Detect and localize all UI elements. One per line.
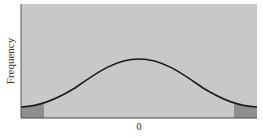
x-tick-zero: 0 — [134, 121, 144, 132]
y-axis-label: Frequency — [2, 30, 18, 92]
normal-distribution-chart — [0, 0, 263, 138]
plot-area — [21, 4, 257, 118]
